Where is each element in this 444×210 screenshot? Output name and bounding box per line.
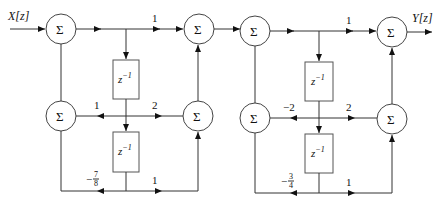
gain-s2-mid-right: 2 [346,101,352,113]
svg-text:3: 3 [289,172,293,181]
gain-s1-mid-right: 2 [152,99,158,111]
block-diagram: X[z] Σ 1 z−1 1 2 z−1 − 7 8 1 Σ [0,0,444,210]
svg-text:Σ: Σ [193,109,201,124]
svg-text:−: − [86,173,92,185]
gain-s1-bottom-right: 1 [152,174,158,186]
gain-s2-bottom-right: 1 [346,176,352,188]
delay-block-s1-1: z−1 [113,60,139,99]
summer-s1-bottom-left: Σ [46,101,76,131]
svg-text:Σ: Σ [250,24,258,39]
svg-text:Σ: Σ [387,25,395,40]
svg-text:7: 7 [94,170,98,179]
summer-s1-top-right: Σ [184,14,214,44]
svg-text:4: 4 [289,181,293,190]
svg-text:Σ: Σ [56,109,64,124]
gain-s2-mid-left: −2 [283,101,295,113]
summer-s2-bottom-right: Σ [377,104,407,134]
svg-text:Σ: Σ [387,112,395,127]
gain-s2-bottom-left: − 3 4 [281,172,294,190]
delay-block-s2-1: z−1 [305,62,333,101]
delay-block-s2-2: z−1 [305,134,333,173]
gain-s1-bottom-left: − 7 8 [86,170,99,188]
output-label: Y[z] [412,11,433,25]
svg-text:−: − [281,175,287,187]
sigma-symbol: Σ [56,22,64,37]
input-label: X[z] [7,9,30,23]
svg-text:Σ: Σ [250,111,258,126]
summer-s2-top-left: Σ [240,16,270,46]
delay-block-s1-2: z−1 [113,132,139,172]
summer-s2-top-right: Σ [377,17,407,47]
output-signal: Y[z] [407,11,433,32]
summer-s1-top-left: Σ [46,14,76,44]
svg-text:Σ: Σ [194,22,202,37]
summer-s2-bottom-left: Σ [240,103,270,133]
gain-s2-top: 1 [346,14,352,26]
svg-text:8: 8 [94,179,98,188]
gain-s1-mid-left: 1 [94,99,100,111]
input-signal: X[z] [7,9,45,29]
summer-s1-bottom-right: Σ [183,101,213,131]
gain-s1-top: 1 [152,12,158,24]
